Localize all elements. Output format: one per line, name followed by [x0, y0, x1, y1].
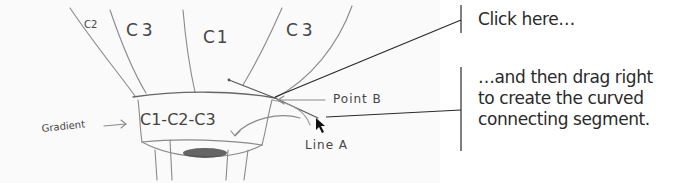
band-label: C1-C2-C3 — [140, 110, 216, 129]
callout-click-text: Click here… — [478, 9, 575, 30]
callout-drag-line-3: connecting segment. — [478, 109, 683, 130]
callout-drag-line-2: to create the curved — [478, 88, 683, 109]
callout-drag-text: …and then drag right to create the curve… — [478, 67, 683, 130]
panel-label-c1: C1 — [203, 27, 230, 47]
point-b-label: Point B — [333, 92, 382, 106]
panel-label-c3-right: C3 — [286, 20, 317, 40]
panel-label-c3-left: C3 — [126, 20, 157, 40]
panel-label-c2: C2 — [84, 19, 97, 30]
line-a-label: Line A — [305, 138, 348, 152]
callout-drag-line-1: …and then drag right — [478, 67, 683, 88]
pencil-sketch: C2 C3 C1 C3 C1-C2-C3 Gradient Point B Li… — [0, 0, 440, 183]
